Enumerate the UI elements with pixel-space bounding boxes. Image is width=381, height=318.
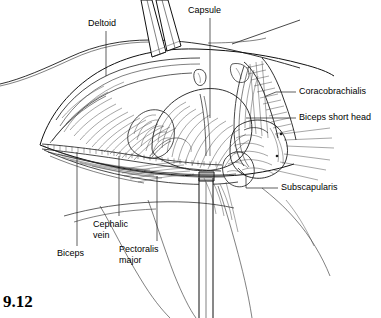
label-pectoralis-major: Pectoralis major	[119, 244, 159, 265]
label-deltoid: Deltoid	[88, 18, 116, 29]
label-biceps: Biceps	[57, 248, 84, 259]
label-cephalic-vein: Cephalic vein	[93, 219, 128, 240]
label-coracobrachialis: Coracobrachialis	[299, 86, 366, 97]
label-capsule: Capsule	[188, 5, 221, 16]
figure-number: 9.12	[3, 292, 33, 312]
figure-container: Deltoid Capsule Coracobrachialis Biceps …	[0, 0, 381, 318]
anatomical-illustration	[0, 0, 381, 318]
retractor-inferior-group	[199, 172, 214, 318]
label-biceps-short-head: Biceps short head	[299, 112, 371, 123]
label-subscapularis: Subscapularis	[281, 182, 338, 193]
